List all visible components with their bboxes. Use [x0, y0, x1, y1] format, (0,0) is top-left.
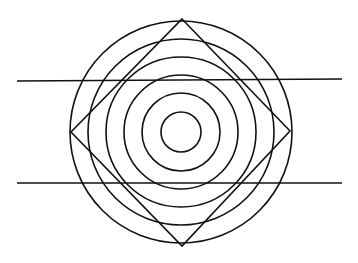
- horizontal-line-top: [17, 79, 342, 81]
- concentric-circle-5: [142, 93, 220, 171]
- concentric-circle-1: [70, 21, 292, 243]
- concentric-circles: [70, 21, 292, 243]
- concentric-circle-2: [88, 39, 274, 225]
- illusion-diagram: [0, 0, 358, 263]
- concentric-circle-4: [124, 75, 238, 189]
- concentric-circle-6: [161, 112, 201, 152]
